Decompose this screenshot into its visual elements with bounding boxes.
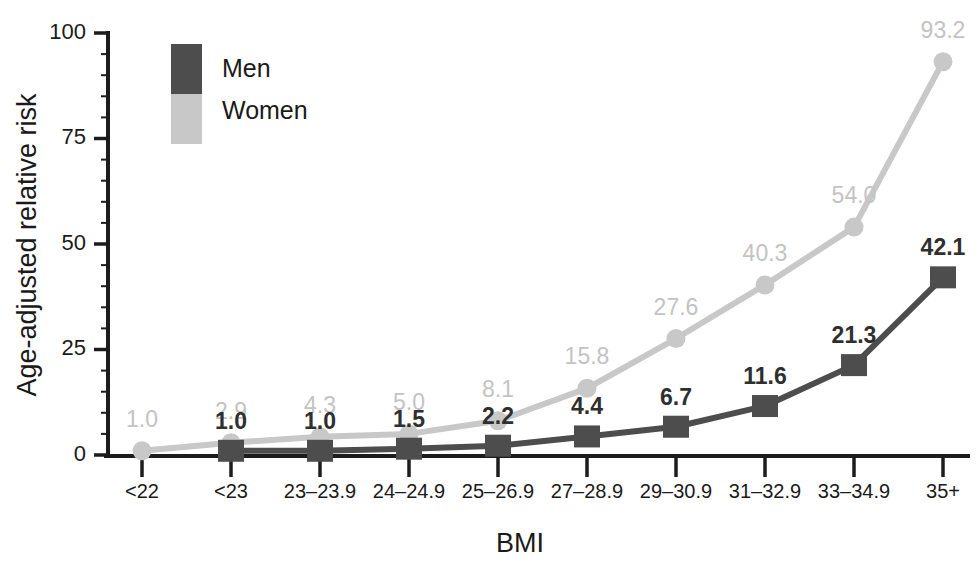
- x-tick-label: <22: [125, 480, 159, 502]
- y-tick-label: 25: [62, 335, 86, 360]
- y-tick-label: 50: [62, 230, 86, 255]
- legend: Men Women: [171, 44, 308, 144]
- data-point-marker: [307, 440, 333, 462]
- data-point-marker: [133, 441, 152, 460]
- x-tick-label: <23: [214, 480, 248, 502]
- data-point-label: 1.0: [126, 406, 158, 432]
- x-tick-label: 25–26.9: [462, 480, 534, 502]
- data-point-marker: [667, 329, 686, 348]
- legend-label-women: Women: [222, 96, 308, 124]
- data-point-marker: [574, 425, 600, 447]
- legend-label-men: Men: [222, 54, 271, 82]
- data-point-label: 11.6: [743, 363, 787, 389]
- data-point-marker: [752, 395, 778, 417]
- x-tick-label: 23–23.9: [284, 480, 356, 502]
- data-point-marker: [218, 440, 244, 462]
- data-point-marker: [396, 438, 422, 460]
- data-point-label: 40.3: [743, 240, 788, 266]
- x-tick-label: 24–24.9: [373, 480, 445, 502]
- x-axis-ticks: [142, 456, 943, 477]
- chart-svg: Age-adjusted relative risk 0255075100 <2…: [0, 0, 979, 565]
- data-point-label: 1.0: [304, 408, 336, 434]
- data-point-label: 15.8: [565, 343, 610, 369]
- x-axis-title: BMI: [496, 528, 544, 558]
- data-point-marker: [841, 354, 867, 376]
- data-point-marker: [930, 266, 956, 288]
- data-point-marker: [934, 52, 953, 71]
- y-tick-label: 100: [49, 19, 86, 44]
- data-point-label: 1.5: [393, 406, 425, 432]
- x-tick-label: 27–28.9: [551, 480, 623, 502]
- data-point-label: 1.0: [215, 408, 247, 434]
- data-point-marker: [663, 416, 689, 438]
- x-tick-label: 35+: [926, 480, 960, 502]
- legend-swatch-women: [171, 94, 202, 144]
- data-point-label: 2.2: [482, 403, 514, 429]
- x-tick-label: 33–34.9: [818, 480, 890, 502]
- y-axis-tick-labels: 0255075100: [49, 19, 86, 466]
- data-point-marker: [845, 218, 864, 237]
- data-point-marker: [485, 435, 511, 457]
- data-point-label: 6.7: [660, 384, 692, 410]
- legend-swatch-men: [171, 44, 202, 94]
- data-point-label: 8.1: [482, 376, 514, 402]
- x-tick-label: 31–32.9: [729, 480, 801, 502]
- chart-container: Age-adjusted relative risk 0255075100 <2…: [0, 0, 979, 565]
- data-point-label: 21.3: [832, 322, 877, 348]
- data-point-label: 4.4: [571, 393, 603, 419]
- data-point-label: 27.6: [654, 294, 699, 320]
- data-point-label: 42.1: [921, 234, 966, 260]
- y-axis-title-group: Age-adjusted relative risk: [12, 93, 42, 397]
- data-point-label: 54.0: [832, 182, 877, 208]
- y-axis-title: Age-adjusted relative risk: [12, 93, 42, 397]
- data-point-label: 93.2: [921, 17, 966, 43]
- y-tick-label: 75: [62, 124, 86, 149]
- data-point-marker: [756, 275, 775, 294]
- x-tick-label: 29–30.9: [640, 480, 712, 502]
- y-tick-label: 0: [74, 441, 86, 466]
- y-axis-ticks: [94, 33, 108, 455]
- x-axis-tick-labels: <22<2323–23.924–24.925–26.927–28.929–30.…: [125, 480, 960, 502]
